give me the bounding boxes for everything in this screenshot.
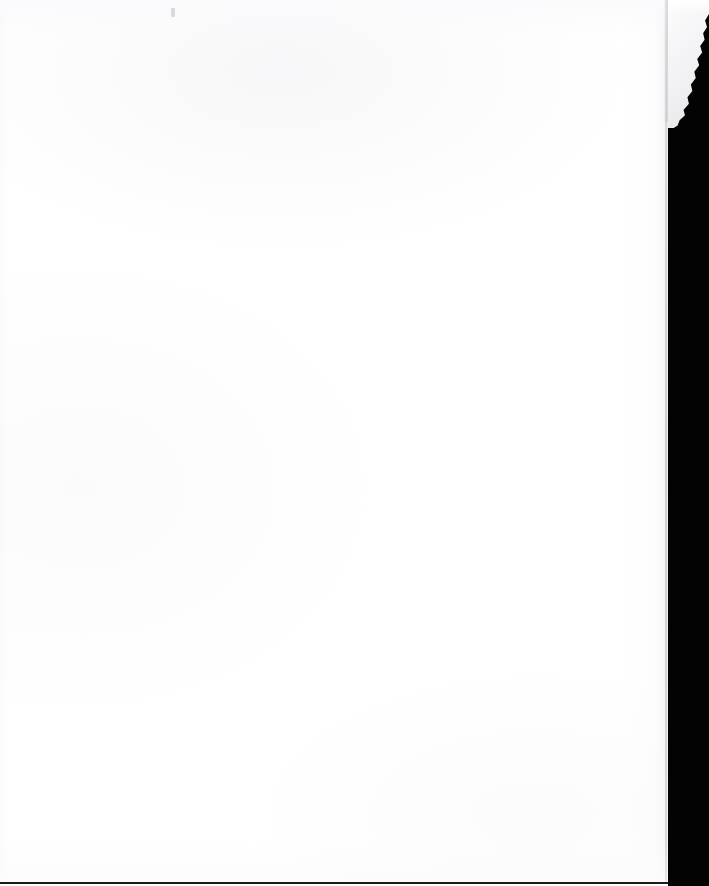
paper-sheet <box>0 0 668 886</box>
scanned-page-canvas: Blank scanned page <box>0 0 709 886</box>
paper-tone-highlight <box>0 0 668 886</box>
scan-speck-artifact <box>171 8 175 17</box>
paper-tone-gradient <box>0 0 668 886</box>
